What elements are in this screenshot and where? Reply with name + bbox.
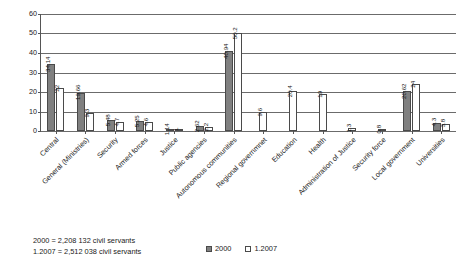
bar-group: 9.6 [248, 14, 278, 131]
bar-2000[interactable]: 40.94 [225, 51, 233, 131]
bar-value-label: 19 [316, 91, 322, 98]
bar-group: 20.6224 [397, 14, 427, 131]
x-label-cell: Administration of Justice [337, 136, 367, 206]
bar-value-label: 22 [54, 85, 60, 92]
y-tick-label: 40 [29, 49, 37, 56]
x-tick-mark [145, 131, 146, 134]
x-tick-mark [174, 131, 175, 134]
bar-value-label: 4.6 [143, 118, 149, 127]
bar-value-label: 20.4 [287, 85, 293, 97]
bar-1-2007[interactable]: 1 [175, 129, 183, 131]
bar-value-label: 5.48 [104, 114, 110, 126]
bar-group: 19.669.3 [71, 14, 101, 131]
bar-group: 1.3 [337, 14, 367, 131]
bar-value-label: 2.62 [193, 120, 199, 132]
bar-value-label: 9.3 [84, 109, 90, 118]
x-tick-mark [234, 131, 235, 134]
bar-1-2007[interactable]: 4.6 [145, 122, 153, 131]
bar-chart: 0102030405060 34.142219.669.35.484.75.25… [0, 0, 465, 270]
bar-1-2007[interactable]: 22 [56, 88, 64, 131]
x-axis-category-label: Security [96, 136, 120, 160]
bar-value-label: 1.14 [164, 123, 170, 135]
legend-label: 2000 [215, 244, 231, 253]
x-tick-mark [204, 131, 205, 134]
bar-group: 40.9450.2 [219, 14, 249, 131]
x-tick-mark [441, 131, 442, 134]
x-label-cell: Universities [426, 136, 456, 206]
x-label-cell: Armed forces [129, 136, 159, 206]
legend-label: 1.2007 [254, 244, 277, 253]
x-tick-mark [56, 131, 57, 134]
bar-value-label: 5.25 [134, 115, 140, 127]
legend-swatch-icon [206, 246, 212, 252]
plot-area: 0102030405060 34.142219.669.35.484.75.25… [40, 14, 456, 132]
bar-value-label: 24 [410, 81, 416, 88]
bar-groups: 34.142219.669.35.484.75.254.61.1412.622.… [41, 14, 456, 131]
legend-item[interactable]: 1.2007 [245, 244, 277, 253]
bar-group: 20.4 [278, 14, 308, 131]
footnote-2007: 1.2007 = 2,512 038 civil servants [33, 247, 141, 258]
bar-group: 34.1422 [41, 14, 71, 131]
bar-group: 19 [308, 14, 338, 131]
x-tick-mark [352, 131, 353, 134]
x-axis-category-label: Health [308, 136, 328, 156]
footnote-2000: 2000 = 2,208 132 civil servants [33, 236, 141, 247]
bar-group: 5.484.7 [100, 14, 130, 131]
gridline [41, 131, 456, 132]
bar-value-label: 50.2 [232, 27, 238, 39]
y-tick-label: 50 [29, 30, 37, 37]
bar-value-label: 2.2 [202, 122, 208, 131]
bar-group: 0.8 [367, 14, 397, 131]
y-tick-label: 60 [29, 10, 37, 17]
y-tick-label: 10 [29, 108, 37, 115]
bar-1-2007[interactable]: 2.2 [205, 127, 213, 131]
y-tick-label: 20 [29, 88, 37, 95]
y-tick-label: 30 [29, 69, 37, 76]
x-tick-mark [382, 131, 383, 134]
bar-value-label: 40.94 [223, 43, 229, 58]
bar-group: 2.622.2 [189, 14, 219, 131]
x-tick-mark [85, 131, 86, 134]
x-label-cell: General (Ministries) [70, 136, 100, 206]
x-label-cell: Local government [397, 136, 427, 206]
chart-legend: 20001.2007 [206, 244, 277, 253]
legend-item[interactable]: 2000 [206, 244, 231, 253]
y-tick-label: 0 [33, 127, 37, 134]
x-label-cell: Security [99, 136, 129, 206]
x-tick-mark [263, 131, 264, 134]
x-label-cell: Regional governmnet [248, 136, 278, 206]
bar-value-label: 3.8 [439, 119, 445, 128]
bar-2000[interactable]: 20.62 [403, 91, 411, 131]
bar-2000[interactable]: 34.14 [47, 64, 55, 131]
footnotes: 2000 = 2,208 132 civil servants 1.2007 =… [33, 236, 141, 257]
x-tick-mark [412, 131, 413, 134]
bar-1-2007[interactable]: 4.7 [116, 122, 124, 131]
bar-value-label: 4.7 [113, 118, 119, 127]
x-tick-mark [115, 131, 116, 134]
x-axis-category-label: Justice [158, 136, 179, 157]
bar-1-2007[interactable]: 3.8 [442, 124, 450, 131]
bar-value-label: 4.3 [430, 118, 436, 127]
bar-1-2007[interactable]: 9.3 [86, 113, 94, 131]
x-axis-labels: CentralGeneral (Ministries)SecurityArmed… [40, 136, 456, 206]
bar-group: 4.33.8 [426, 14, 456, 131]
x-tick-mark [323, 131, 324, 134]
legend-swatch-icon [245, 246, 251, 252]
bar-1-2007[interactable]: 24 [412, 84, 420, 131]
y-tick-mark [38, 131, 41, 132]
bar-1-2007[interactable]: 19 [319, 94, 327, 131]
x-tick-mark [293, 131, 294, 134]
bar-value-label: 19.66 [75, 85, 81, 100]
bar-1-2007[interactable]: 9.6 [259, 112, 267, 131]
bar-value-label: 34.14 [45, 57, 51, 72]
x-axis-category-label: Central [38, 136, 60, 158]
bar-value-label: 9.6 [257, 108, 263, 117]
bar-group: 1.141 [160, 14, 190, 131]
bar-1-2007[interactable]: 20.4 [289, 91, 297, 131]
bar-1-2007[interactable]: 50.2 [234, 33, 242, 131]
bar-group: 5.254.6 [130, 14, 160, 131]
bar-value-label: 20.62 [401, 83, 407, 98]
